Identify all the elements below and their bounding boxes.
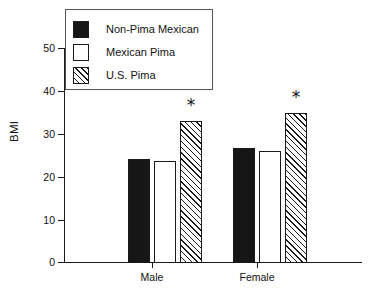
y-tick-40: 40	[0, 91, 64, 92]
significance-star-female: *	[292, 89, 301, 106]
bar-female-mexican-pima	[259, 151, 281, 263]
y-tick-mark-30	[58, 134, 64, 135]
legend-item-mexican-pima: Mexican Pima	[73, 41, 175, 63]
y-tick-10: 10	[0, 220, 64, 221]
bar-female-non-pima-mexican	[233, 148, 255, 263]
y-tick-mark-40	[58, 91, 64, 92]
legend-swatch-hatch-icon	[73, 67, 89, 84]
bar-female-us-pima	[285, 113, 307, 263]
bmi-bar-chart: BMI 50 40 30 20 10 0 Male Female * *	[0, 0, 375, 297]
legend-item-non-pima-mexican: Non-Pima Mexican	[73, 18, 199, 40]
significance-star-male: *	[187, 97, 196, 114]
chart-legend: Non-Pima Mexican Mexican Pima U.S. Pima	[65, 9, 213, 90]
x-tick-label-female: Female	[239, 272, 274, 283]
y-tick-20: 20	[0, 177, 64, 178]
legend-item-us-pima: U.S. Pima	[73, 64, 156, 86]
legend-swatch-open-icon	[73, 44, 89, 61]
y-tick-mark-50	[58, 48, 64, 49]
y-tick-50: 50	[0, 48, 64, 49]
x-tick-mark-female	[257, 262, 258, 268]
legend-label-us-pima: U.S. Pima	[106, 70, 156, 81]
y-tick-0: 0	[0, 262, 64, 263]
bar-male-us-pima	[180, 121, 202, 263]
y-tick-30: 30	[0, 134, 64, 135]
y-tick-mark-10	[58, 220, 64, 221]
x-axis-line	[64, 262, 362, 263]
legend-label-non-pima-mexican: Non-Pima Mexican	[106, 24, 199, 35]
legend-label-mexican-pima: Mexican Pima	[106, 47, 175, 58]
x-tick-mark-male	[152, 262, 153, 268]
x-tick-label-male: Male	[141, 272, 164, 283]
y-tick-mark-20	[58, 177, 64, 178]
bar-male-mexican-pima	[154, 161, 176, 263]
legend-swatch-solid-icon	[73, 21, 89, 38]
bar-male-non-pima-mexican	[128, 159, 150, 263]
